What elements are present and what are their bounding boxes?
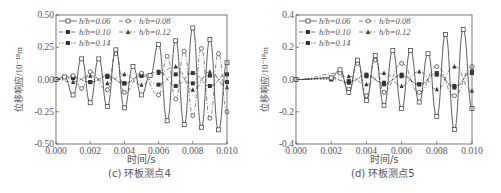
legend: h/b=0.06h/b=0.08h/b=0.10h/b=0.12h/b=0.14 [59, 16, 171, 48]
legend-entry: h/b=0.10 [79, 27, 111, 37]
legend: h/b=0.06h/b=0.08h/b=0.10h/b=0.12h/b=0.14 [299, 16, 411, 48]
y-tick-label: -0.25 [34, 107, 54, 117]
y-tick-label: 0.25 [37, 42, 54, 52]
x-tick-label: 0.002 [321, 146, 343, 156]
y-tick-label: -0.2 [279, 107, 294, 117]
series-line [296, 67, 472, 91]
y-tick-label: 0.00 [37, 75, 54, 85]
y-tick-label: 0.2 [282, 42, 294, 52]
legend-entry: h/b=0.12 [379, 27, 411, 37]
xlabel-c: 时间/s [127, 151, 156, 166]
legend-entry: h/b=0.08 [379, 16, 411, 26]
y-axis-label: 位移响应/10⁻¹⁸m [13, 47, 24, 112]
y-axis-label: 位移响应/10⁻¹⁸m [259, 47, 270, 112]
caption-d: (d) 环板测点5 [351, 165, 415, 180]
x-tick-label: 0.010 [216, 146, 238, 156]
y-tick-label: 0.0 [282, 75, 294, 85]
y-tick-label: -0.4 [279, 139, 294, 149]
y-tick-label: 0.4 [282, 10, 294, 20]
x-tick-label: 0.008 [182, 146, 204, 156]
legend-entry: h/b=0.06 [319, 16, 351, 26]
x-tick-label: 0.008 [426, 146, 448, 156]
legend-entry: h/b=0.08 [139, 16, 171, 26]
legend-entry: h/b=0.14 [319, 38, 351, 48]
chart-panel-d: 0.0000.0020.0040.0060.0080.0100.40.20.0-… [250, 0, 501, 193]
x-tick-label: 0.002 [80, 146, 102, 156]
legend-entry: h/b=0.10 [319, 27, 351, 37]
legend-entry: h/b=0.06 [79, 16, 111, 26]
y-tick-label: 0.50 [37, 10, 54, 20]
caption-c: (c) 环板测点4 [108, 165, 171, 180]
legend-entry: h/b=0.14 [79, 38, 111, 48]
y-tick-label: -0.50 [34, 139, 54, 149]
legend-entry: h/b=0.12 [139, 27, 171, 37]
chart-panel-c: 0.0000.0020.0040.0060.0080.0100.500.250.… [0, 0, 250, 193]
xlabel-d: 时间/s [370, 151, 399, 166]
x-tick-label: 0.010 [461, 146, 483, 156]
